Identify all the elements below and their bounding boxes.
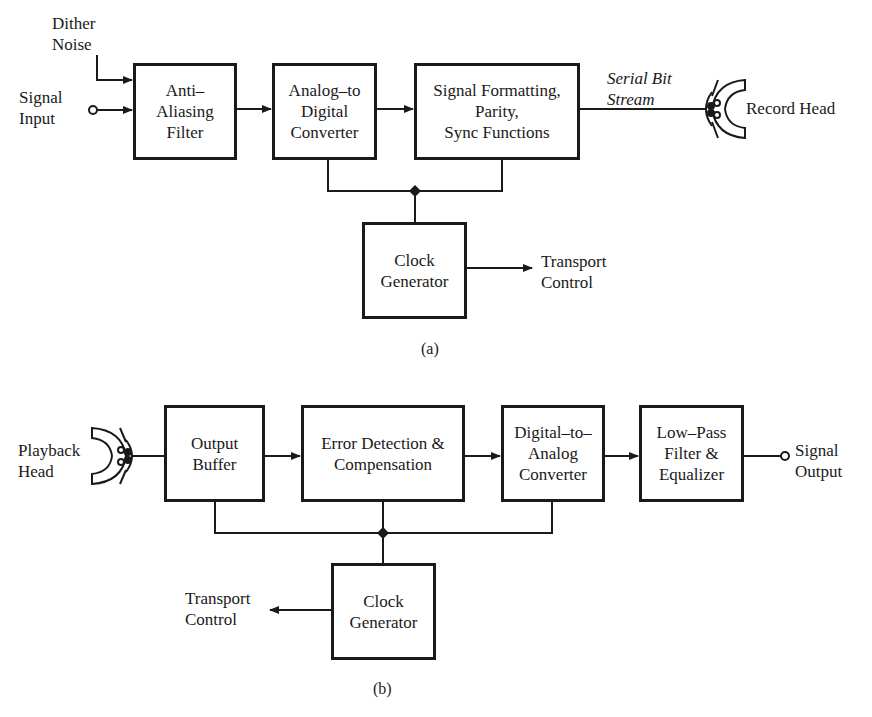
block-label: Signal Formatting, Parity, Sync Function… bbox=[433, 80, 561, 143]
block-label: Anti– Aliasing Filter bbox=[156, 80, 214, 143]
adc-block: Analog–to Digital Converter bbox=[272, 63, 377, 160]
dither-noise-label: Dither Noise bbox=[52, 13, 95, 55]
block-label: Output Buffer bbox=[191, 433, 238, 475]
block-label: Clock Generator bbox=[381, 250, 449, 292]
playback-head-label: Playback Head bbox=[18, 440, 80, 482]
error-detection-block: Error Detection & Compensation bbox=[301, 405, 465, 502]
signal-input-label: Signal Input bbox=[19, 87, 62, 129]
junction-dot-a bbox=[409, 185, 421, 197]
caption-a: (a) bbox=[421, 340, 439, 358]
serial-bit-stream-label: Serial Bit Stream bbox=[607, 68, 672, 110]
clock-generator-block-b: Clock Generator bbox=[331, 563, 436, 660]
caption-b: (b) bbox=[373, 680, 392, 698]
block-label: Low–Pass Filter & Equalizer bbox=[657, 422, 727, 485]
signal-output-label: Signal Output bbox=[795, 440, 842, 482]
block-label: Digital–to– Analog Converter bbox=[514, 422, 591, 485]
playback-head-icon bbox=[92, 428, 132, 484]
low-pass-filter-block: Low–Pass Filter & Equalizer bbox=[639, 405, 744, 502]
block-label: Clock Generator bbox=[350, 591, 418, 633]
signal-formatting-block: Signal Formatting, Parity, Sync Function… bbox=[414, 63, 580, 160]
transport-control-label-a: Transport Control bbox=[541, 251, 607, 293]
record-head-label: Record Head bbox=[746, 98, 835, 119]
anti-aliasing-filter-block: Anti– Aliasing Filter bbox=[133, 63, 237, 160]
record-head-icon bbox=[706, 80, 745, 138]
transport-control-label-b: Transport Control bbox=[185, 588, 251, 630]
block-label: Analog–to Digital Converter bbox=[289, 80, 361, 143]
block-label: Error Detection & Compensation bbox=[321, 433, 445, 475]
clock-generator-block-a: Clock Generator bbox=[362, 222, 467, 319]
junction-dot-b bbox=[377, 527, 389, 539]
dac-block: Digital–to– Analog Converter bbox=[501, 405, 605, 502]
output-buffer-block: Output Buffer bbox=[164, 405, 265, 502]
